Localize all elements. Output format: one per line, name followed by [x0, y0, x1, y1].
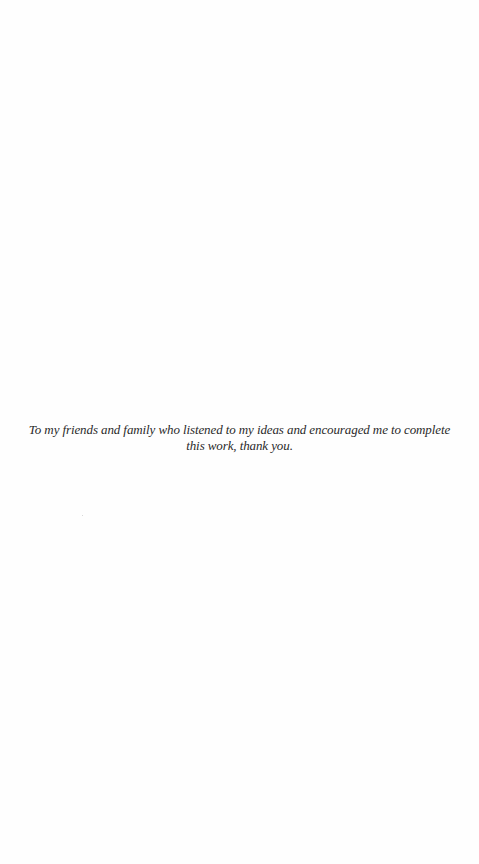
- dedication-page: To my friends and family who listened to…: [0, 0, 479, 864]
- scan-speck: [82, 515, 83, 516]
- dedication-text: To my friends and family who listened to…: [22, 422, 457, 454]
